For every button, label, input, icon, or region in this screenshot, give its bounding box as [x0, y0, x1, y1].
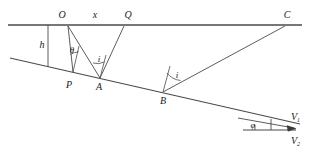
label-v2-subscript: 2	[297, 141, 300, 147]
label-a: A	[95, 81, 103, 92]
label-o: O	[58, 9, 65, 20]
label-i-at-a: i	[98, 54, 101, 64]
label-p: P	[65, 79, 72, 90]
label-v1: V1	[291, 111, 300, 123]
label-x: x	[92, 9, 98, 20]
geometry-figure: O x Q C h θ i i P A B φ V1 V2	[0, 0, 310, 152]
velocity-upper-arrow-line	[238, 118, 294, 128]
ray-b-to-c	[163, 26, 285, 92]
label-theta: θ	[70, 45, 75, 55]
normal-tick-at-b	[163, 66, 170, 92]
ray-a-to-q	[100, 26, 124, 78]
interface-line	[10, 58, 300, 124]
label-i-at-b: i	[176, 70, 179, 80]
label-h: h	[40, 39, 45, 50]
label-phi: φ	[251, 120, 256, 130]
label-v1-subscript: 1	[297, 117, 300, 123]
angle-arc-i-at-b	[167, 73, 181, 81]
label-q: Q	[124, 9, 132, 20]
label-c: C	[284, 9, 291, 20]
label-b: B	[160, 95, 166, 106]
label-v2: V2	[291, 135, 300, 147]
diagram-canvas: O x Q C h θ i i P A B φ V1 V2	[0, 0, 310, 152]
